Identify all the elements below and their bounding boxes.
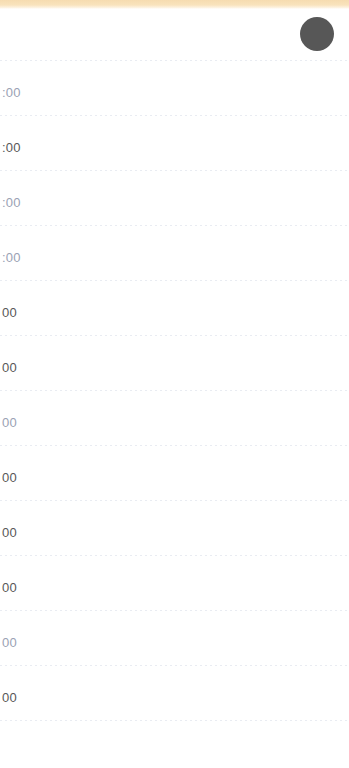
time-label: :00	[2, 85, 21, 100]
time-label: 00	[2, 580, 17, 595]
time-row[interactable]: 00	[0, 336, 349, 391]
schedule-grid: :00:00:00:000000000000000000	[0, 0, 349, 768]
time-label: :00	[2, 140, 21, 155]
time-label: 00	[2, 305, 17, 320]
time-row[interactable]: 00	[0, 501, 349, 556]
time-slot-area[interactable]	[40, 116, 349, 171]
time-row[interactable]: 00	[0, 556, 349, 611]
time-row[interactable]: 00	[0, 611, 349, 666]
time-row[interactable]: :00	[0, 61, 349, 116]
time-slot-area[interactable]	[40, 501, 349, 556]
time-slot-area[interactable]	[40, 391, 349, 446]
time-row[interactable]	[0, 6, 349, 61]
time-row[interactable]: 00	[0, 666, 349, 721]
time-row[interactable]: :00	[0, 116, 349, 171]
time-row[interactable]: :00	[0, 171, 349, 226]
time-slot-area[interactable]	[40, 281, 349, 336]
time-row[interactable]: 00	[0, 391, 349, 446]
time-label: 00	[2, 415, 17, 430]
time-row[interactable]: 00	[0, 281, 349, 336]
row-divider	[0, 720, 349, 721]
time-slot-area[interactable]	[40, 336, 349, 391]
time-label: 00	[2, 470, 17, 485]
time-label: 00	[2, 690, 17, 705]
time-label: :00	[2, 195, 21, 210]
time-slot-area[interactable]	[40, 446, 349, 501]
time-slot-area[interactable]	[40, 61, 349, 116]
time-slot-area[interactable]	[40, 666, 349, 721]
time-label: :00	[2, 250, 21, 265]
time-label: 00	[2, 525, 17, 540]
time-slot-area[interactable]	[40, 611, 349, 666]
time-row[interactable]: :00	[0, 226, 349, 281]
time-slot-area[interactable]	[40, 6, 349, 61]
time-slot-area[interactable]	[40, 556, 349, 611]
time-label: 00	[2, 635, 17, 650]
time-slot-area[interactable]	[40, 171, 349, 226]
time-label: 00	[2, 360, 17, 375]
time-slot-area[interactable]	[40, 226, 349, 281]
time-row[interactable]: 00	[0, 446, 349, 501]
